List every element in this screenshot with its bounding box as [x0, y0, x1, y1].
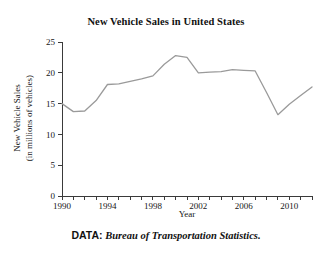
y-axis-label: New Vehicle Sales (in millions of vehicl…: [8, 52, 38, 184]
chart-axes: 0510152025 199019941998200220062010: [46, 37, 312, 211]
y-tick-label: 20: [46, 68, 56, 78]
y-axis-label-line2: (in millions of vehicles): [23, 75, 35, 161]
y-tick-label: 5: [51, 160, 56, 170]
data-series-line: [62, 56, 312, 115]
source-value: Bureau of Transportation Statistics.: [105, 230, 260, 241]
axis-lines: [62, 42, 312, 196]
y-tick-label: 0: [51, 191, 56, 201]
chart-figure: New Vehicle Sales in United States 05101…: [0, 0, 332, 260]
y-tick-label: 10: [46, 130, 56, 140]
y-axis-tick-labels: 0510152025: [46, 37, 56, 201]
x-axis-ticks: [62, 196, 312, 200]
source-label: DATA:: [71, 229, 102, 241]
y-axis-ticks: [58, 42, 62, 196]
line-chart-plot: 0510152025 199019941998200220062010: [0, 0, 332, 260]
y-tick-label: 15: [46, 99, 56, 109]
x-axis-label: Year: [62, 209, 312, 219]
y-tick-label: 25: [46, 37, 56, 47]
y-axis-label-line1: New Vehicle Sales: [11, 84, 23, 151]
source-note: DATA: Bureau of Transportation Statistic…: [0, 229, 332, 241]
